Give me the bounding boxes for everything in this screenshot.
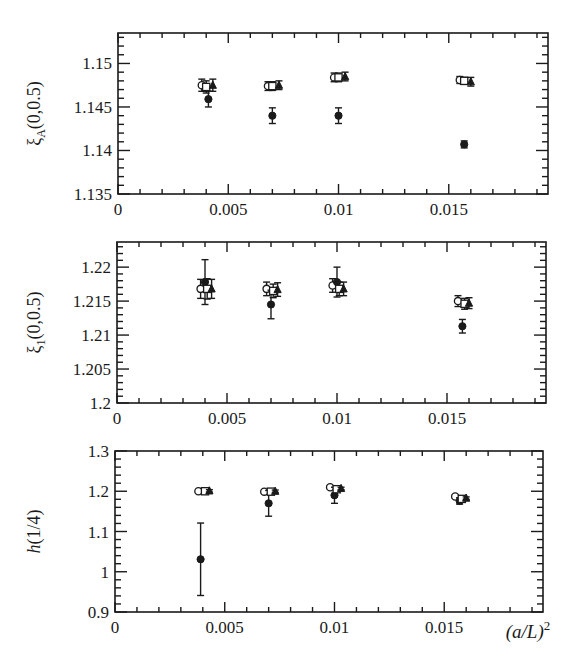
- y-tick-label: 1.215: [73, 292, 111, 311]
- x-tick-label: 0.005: [208, 409, 246, 428]
- series-filled-circle: [197, 487, 463, 595]
- y-tick-label: 1.15: [82, 54, 112, 73]
- series-open-circle: [198, 73, 463, 91]
- data-point: [197, 556, 204, 563]
- y-tick-label: 0.9: [88, 603, 109, 622]
- series-open-circle: [197, 279, 462, 307]
- y-tick-label: 1.3: [88, 442, 109, 461]
- data-point: [269, 112, 276, 119]
- series-filled-circle: [201, 260, 466, 333]
- data-point: [459, 323, 466, 330]
- data-point: [205, 96, 212, 103]
- data-point: [203, 83, 210, 90]
- plot-frame: [117, 242, 546, 403]
- x-tick-label: 0.015: [430, 200, 468, 219]
- y-tick-label: 1.21: [81, 326, 111, 345]
- y-tick-label: 1.2: [88, 482, 109, 501]
- data-point: [461, 141, 468, 148]
- plot-frame: [118, 33, 548, 194]
- x-tick-label: 0.005: [209, 200, 247, 219]
- panel-xi-a: 00.0050.010.0151.1351.141.1451.15ξA(0,0.…: [24, 33, 548, 219]
- x-axis-label: (a/L)2: [506, 618, 551, 643]
- y-tick-label: 1.1: [88, 523, 109, 542]
- data-point: [461, 77, 468, 84]
- y-tick-label: 1.135: [74, 185, 112, 204]
- data-point: [267, 301, 274, 308]
- x-tick-label: 0: [114, 200, 123, 219]
- x-tick-label: 0.005: [206, 618, 244, 637]
- x-tick-label: 0: [113, 409, 122, 428]
- y-tick-label: 1.205: [73, 360, 111, 379]
- x-tick-label: 0.01: [320, 618, 350, 637]
- y-axis-label: ξ1(0,0.5): [24, 291, 48, 353]
- x-axis-label-sup: 2: [544, 618, 551, 633]
- x-tick-label: 0.015: [425, 618, 463, 637]
- panel-h-quarter: 00.0050.010.0150.911.11.21.3h(1/4): [24, 442, 543, 637]
- x-tick-label: 0.01: [324, 200, 354, 219]
- y-tick-label: 1.2: [90, 394, 111, 413]
- x-tick-label: 0.01: [322, 409, 352, 428]
- y-axis-label: ξA(0,0.5): [24, 81, 48, 146]
- x-axis-label-base: (a/L): [506, 621, 544, 643]
- x-tick-label: 0.015: [428, 409, 466, 428]
- panel-xi-1: 00.0050.010.0151.21.2051.211.2151.22ξ1(0…: [24, 242, 546, 428]
- y-axis-label: h(1/4): [24, 510, 45, 554]
- series-open-circle: [195, 484, 459, 500]
- data-point: [335, 112, 342, 119]
- data-point: [265, 500, 272, 507]
- series-filled-circle: [205, 91, 468, 148]
- chart-svg: 00.0050.010.0151.1351.141.1451.15ξA(0,0.…: [0, 0, 580, 670]
- figure-container: 00.0050.010.0151.1351.141.1451.15ξA(0,0.…: [0, 0, 580, 670]
- series-open-square: [203, 73, 468, 93]
- y-tick-label: 1.14: [82, 141, 112, 160]
- y-tick-label: 1: [101, 563, 110, 582]
- y-tick-label: 1.22: [81, 258, 111, 277]
- x-tick-label: 0: [111, 618, 120, 637]
- y-tick-label: 1.145: [74, 98, 112, 117]
- plot-frame: [115, 451, 543, 612]
